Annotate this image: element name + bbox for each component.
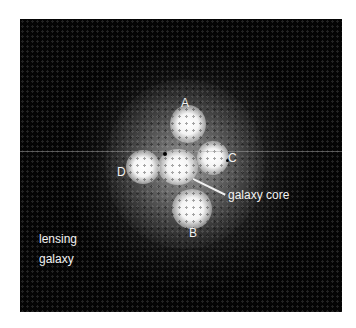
label-galaxy: galaxy — [39, 253, 74, 266]
label-galaxy-core: galaxy core — [228, 189, 289, 202]
label-b: B — [189, 227, 197, 240]
label-c: C — [228, 152, 237, 165]
label-a: A — [181, 97, 189, 110]
dark-speck — [163, 152, 167, 156]
lens-image: A C D B galaxy core lensing galaxy — [20, 19, 342, 312]
label-d: D — [117, 166, 126, 179]
label-lensing: lensing — [39, 233, 77, 246]
scan-line — [20, 151, 342, 152]
image-noise — [20, 19, 342, 312]
